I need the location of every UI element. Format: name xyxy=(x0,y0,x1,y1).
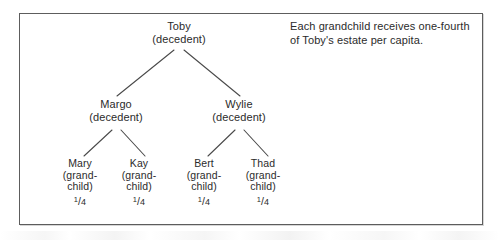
node-share-fraction: 1/4 xyxy=(113,194,165,209)
node-share-fraction: 1/4 xyxy=(178,194,230,209)
fraction-denominator: 4 xyxy=(81,197,86,207)
node-share-fraction: 1/4 xyxy=(237,194,289,209)
node-name: Kay xyxy=(113,158,165,170)
tree-node-thad: Thad (grand- child) 1/4 xyxy=(237,158,289,208)
node-role: (decedent) xyxy=(199,111,279,124)
tree-node-mary: Mary (grand- child) 1/4 xyxy=(54,158,106,208)
scan-noise-band xyxy=(0,231,499,240)
node-role: (decedent) xyxy=(140,33,218,46)
node-name: Toby xyxy=(140,20,218,33)
node-role-line2: child) xyxy=(237,181,289,193)
tree-node-margo: Margo (decedent) xyxy=(76,98,156,123)
node-name: Margo xyxy=(76,98,156,111)
tree-node-wylie: Wylie (decedent) xyxy=(199,98,279,123)
node-name: Bert xyxy=(178,158,230,170)
node-role-line2: child) xyxy=(54,181,106,193)
fraction-denominator: 4 xyxy=(140,197,145,207)
node-share-fraction: 1/4 xyxy=(54,194,106,209)
tree-node-kay: Kay (grand- child) 1/4 xyxy=(113,158,165,208)
fraction-denominator: 4 xyxy=(264,197,269,207)
figure-annotation-text: Each grandchild receives one-fourth of T… xyxy=(290,20,472,47)
node-role-line2: child) xyxy=(113,181,165,193)
tree-node-toby: Toby (decedent) xyxy=(140,20,218,45)
fraction-denominator: 4 xyxy=(205,197,210,207)
tree-node-bert: Bert (grand- child) 1/4 xyxy=(178,158,230,208)
node-role-line2: child) xyxy=(178,181,230,193)
node-name: Mary xyxy=(54,158,106,170)
node-name: Wylie xyxy=(199,98,279,111)
node-role: (decedent) xyxy=(76,111,156,124)
node-name: Thad xyxy=(237,158,289,170)
